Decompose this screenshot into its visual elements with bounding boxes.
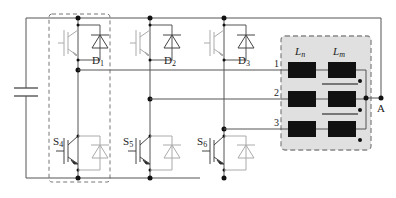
igbt-inactive-icon — [204, 30, 224, 56]
inverter-legs — [76, 16, 227, 181]
leg1-highlight-box — [49, 14, 110, 182]
lower-switch-5 — [128, 135, 181, 172]
upper-switch-1 — [58, 24, 109, 62]
leg-1 — [76, 16, 81, 181]
s6-label: S6 — [197, 135, 207, 149]
igbt-inactive-icon — [58, 30, 78, 56]
lower-switch-4 — [56, 135, 109, 172]
lower-switch-group — [56, 135, 255, 172]
inverter-circuit-diagram: D1 D2 D3 S4 S5 S6 1 2 3 Ln Lm A — [0, 0, 396, 198]
d2-label: D2 — [164, 54, 176, 68]
leg-2 — [148, 16, 153, 181]
d3-label: D3 — [238, 54, 250, 68]
inductor-ln-2 — [288, 91, 316, 107]
s4-label: S4 — [53, 135, 63, 149]
leg-3 — [222, 16, 227, 181]
s5-label: S5 — [123, 135, 133, 149]
phase-1-label: 1 — [274, 58, 279, 69]
diode-inactive-icon — [224, 136, 255, 170]
lower-switch-6 — [202, 135, 255, 172]
inductor-lm-3 — [328, 121, 356, 137]
dc-capacitor — [14, 88, 38, 96]
inductor-lm-2 — [328, 91, 356, 107]
phase-3-label: 3 — [274, 117, 279, 128]
upper-switch-group — [58, 24, 255, 62]
phase-2-label: 2 — [274, 87, 279, 98]
inductor-lm-1 — [328, 62, 356, 78]
output-a-label: A — [377, 102, 385, 114]
d1-label: D1 — [92, 54, 104, 68]
inductor-ln-3 — [288, 121, 316, 137]
diode-inactive-icon — [150, 136, 181, 170]
igbt-inactive-icon — [130, 30, 150, 56]
upper-switch-2 — [130, 24, 181, 62]
upper-switch-3 — [204, 24, 255, 62]
inductor-ln-1 — [288, 62, 316, 78]
diode-inactive-icon — [78, 136, 109, 170]
